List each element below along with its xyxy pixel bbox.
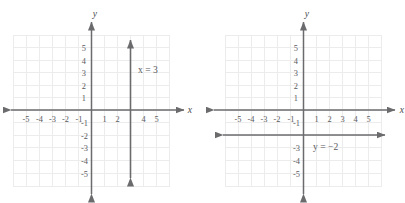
y-tick-label: 1 [294,94,298,103]
x-tick-label: 5 [154,115,158,124]
y-tick-label: 3 [82,69,86,78]
graph-panel-left: -5 -4 -3 -2 -1 1 2 4 5 5 4 3 2 1 -1 -2 -… [0,0,202,203]
y-tick-label: 5 [294,44,298,53]
y-tick-label: 2 [294,82,298,91]
x-tick-label: -2 [274,115,281,124]
y-tick-label: -4 [293,157,301,166]
x-tick-label: 5 [366,115,370,124]
x-tick-label: 2 [115,115,119,124]
y-axis-label: y [304,8,310,19]
equation-label-right: y = −2 [313,141,338,152]
x-tick-label: 3 [340,115,344,124]
equation-label-left: x = 3 [138,64,158,75]
y-tick-label: -3 [293,144,300,153]
y-tick-label: 4 [82,57,87,66]
x-tick-label: -5 [23,115,30,124]
x-axis-label: x [399,104,405,115]
x-tick-label: -2 [62,115,69,124]
x-tick-label: 1 [314,115,318,124]
x-tick-label: -3 [49,115,56,124]
y-tick-labels: 5 4 3 2 1 -1 -2 -3 -4 -5 [81,44,89,179]
y-tick-label: 3 [294,69,298,78]
y-tick-label: -3 [81,144,88,153]
y-tick-label: 4 [294,57,299,66]
y-tick-labels: 5 4 3 2 1 -1 -3 -4 -5 [293,44,301,179]
y-tick-label: 1 [82,94,86,103]
y-tick-label: -5 [81,170,88,179]
x-tick-label: 1 [102,115,106,124]
x-tick-label: -3 [261,115,268,124]
x-tick-label: 2 [327,115,331,124]
y-tick-label: -5 [293,170,300,179]
figure-canvas: -5 -4 -3 -2 -1 1 2 4 5 5 4 3 2 1 -1 -2 -… [0,0,405,203]
y-tick-label: -1 [293,119,300,128]
x-axis-label: x [187,104,193,115]
graph-panel-right: -5 -4 -3 -2 -1 1 2 3 4 5 5 4 3 2 1 -1 -3… [203,0,405,203]
y-tick-label: -4 [81,157,89,166]
y-axis-label: y [92,8,98,19]
y-tick-label: 5 [82,44,86,53]
x-tick-label: -4 [36,115,44,124]
y-tick-label: -1 [81,119,88,128]
y-tick-label: -2 [81,132,88,141]
coordinate-plane-right: -5 -4 -3 -2 -1 1 2 3 4 5 5 4 3 2 1 -1 -3… [203,0,405,203]
x-tick-label: -5 [235,115,242,124]
coordinate-plane-left: -5 -4 -3 -2 -1 1 2 4 5 5 4 3 2 1 -1 -2 -… [0,0,202,203]
y-tick-label: 2 [82,82,86,91]
x-tick-label: -4 [248,115,256,124]
